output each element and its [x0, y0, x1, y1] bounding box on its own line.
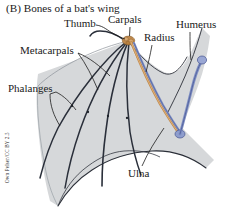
image-credit: Own Pelser/CC BY 2.5	[4, 107, 10, 183]
label-phalanges: Phalanges	[8, 83, 53, 94]
label-radius: Radius	[144, 32, 175, 43]
bat-wing-illustration	[0, 0, 225, 214]
label-humerus: Humerus	[176, 19, 216, 30]
figure-title: (B) Bones of a bat's wing	[6, 3, 120, 14]
joint-node	[87, 111, 89, 113]
leader-line-thumb	[96, 25, 125, 39]
leader-line-carpals	[130, 27, 131, 36]
label-metacarpals: Metacarpals	[20, 45, 74, 56]
label-thumb: Thumb	[64, 18, 96, 29]
shoulder-joint	[197, 56, 206, 64]
label-carpals: Carpals	[108, 14, 142, 25]
joint-node	[107, 115, 109, 117]
joint-node	[126, 117, 128, 119]
label-ulna: Ulna	[128, 168, 149, 179]
bone-thumb	[90, 31, 124, 40]
bat-wing-figure: (B) Bones of a bat's wing Thumb Carpals …	[0, 0, 225, 214]
